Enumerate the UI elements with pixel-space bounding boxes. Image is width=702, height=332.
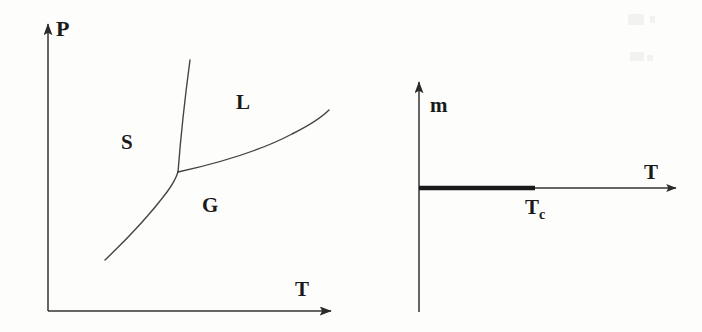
- figure-canvas: P S L G T m T Tc: [0, 0, 702, 332]
- fusion-curve: [178, 60, 190, 172]
- critical-temperature-label: Tc: [525, 197, 545, 218]
- critical-temperature-base: T: [525, 195, 539, 219]
- sublimation-curve: [105, 172, 178, 260]
- solid-region-label: S: [121, 132, 133, 153]
- right-panel-axes: [419, 82, 676, 312]
- m-axis-label: m: [430, 95, 448, 116]
- vaporization-curve: [178, 110, 329, 172]
- t-axis-label-left: T: [295, 279, 309, 300]
- phase-boundaries: [105, 60, 329, 260]
- liquid-region-label: L: [236, 92, 250, 113]
- p-axis-label: P: [56, 18, 69, 40]
- diagram-svg: [0, 0, 702, 332]
- gas-region-label: G: [202, 195, 218, 216]
- t-axis-label-right: T: [644, 162, 658, 183]
- critical-temperature-subscript: c: [539, 207, 545, 222]
